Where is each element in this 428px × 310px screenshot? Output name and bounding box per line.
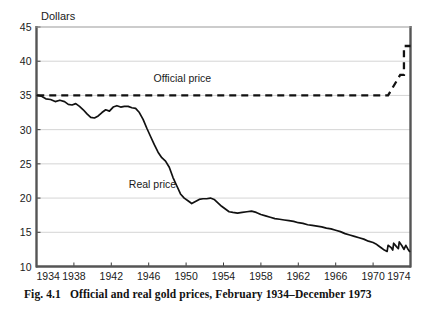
x-tick-label: 1954 <box>212 270 236 282</box>
x-tick-label: 1962 <box>287 270 311 282</box>
figure-caption-text: Official and real gold prices, February … <box>70 288 372 300</box>
x-axis-tick-labels: 1934193819421946195019541958196219661970… <box>37 270 411 282</box>
x-tick-label: 1966 <box>324 270 348 282</box>
series-annotation: Real price <box>129 178 176 190</box>
y-tick-label: 15 <box>20 226 32 238</box>
x-tick-label: 1946 <box>137 270 161 282</box>
gold-prices-chart: 1015202530354045 19341938194219461950195… <box>0 0 428 310</box>
y-tick-label: 20 <box>20 192 32 204</box>
y-tick-label: 25 <box>20 158 32 170</box>
series-annotation: Official price <box>154 72 212 84</box>
x-tick-label: 1942 <box>100 270 124 282</box>
y-axis-title: Dollars <box>41 10 76 22</box>
x-tick-label: 1950 <box>174 270 198 282</box>
y-axis-tick-labels: 1015202530354045 <box>20 21 32 273</box>
figure-caption: Fig. 4.1Official and real gold prices, F… <box>24 288 424 300</box>
y-tick-label: 40 <box>20 55 32 67</box>
y-tick-label: 35 <box>20 89 32 101</box>
plot-background <box>36 27 411 267</box>
y-tick-label: 10 <box>20 261 32 273</box>
y-tick-label: 45 <box>20 21 32 33</box>
y-tick-label: 30 <box>20 124 32 136</box>
x-tick-label: 1958 <box>249 270 273 282</box>
x-tick-label: 1970 <box>361 270 385 282</box>
x-tick-label: 1974 <box>387 270 411 282</box>
figure-caption-number: Fig. 4.1 <box>24 288 61 300</box>
x-tick-label: 1934 <box>37 270 61 282</box>
figure-gold-prices: 1015202530354045 19341938194219461950195… <box>0 0 428 310</box>
x-tick-label: 1938 <box>62 270 86 282</box>
